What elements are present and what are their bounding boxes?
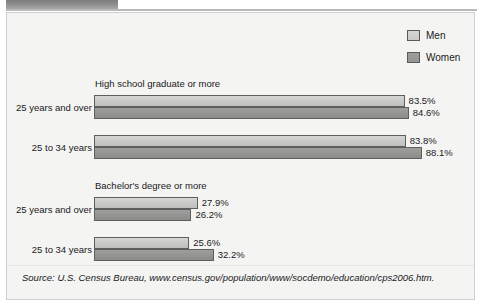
value-women-hs-25-and-over: 84.6% bbox=[413, 107, 440, 118]
source-note: Source: U.S. Census Bureau, www.census.g… bbox=[22, 272, 434, 283]
bar-women-hs-25-and-over bbox=[94, 107, 409, 119]
bar-men-ba-25-and-over bbox=[94, 197, 198, 209]
value-men-hs-25-to-34: 83.8% bbox=[410, 135, 437, 146]
value-men-hs-25-and-over: 83.5% bbox=[409, 95, 436, 106]
bar-pair-bachelors-25-and-over: 25 years and over 27.9% 26.2% bbox=[0, 197, 469, 225]
value-men-ba-25-and-over: 27.9% bbox=[202, 197, 229, 208]
bar-pair-25-and-over: 25 years and over 83.5% 84.6% bbox=[0, 95, 469, 123]
group-title-highschool: High school graduate or more bbox=[95, 78, 220, 89]
bar-pair-25-to-34: 25 to 34 years 83.8% 88.1% bbox=[0, 135, 469, 163]
legend-label-men: Men bbox=[426, 30, 445, 41]
header-band bbox=[6, 0, 118, 9]
bar-women-ba-25-to-34 bbox=[94, 249, 214, 261]
bar-men-ba-25-to-34 bbox=[94, 237, 189, 249]
category-label-bachelors-25-and-over: 25 years and over bbox=[0, 204, 92, 215]
chart-legend: Men Women bbox=[407, 26, 477, 70]
value-women-ba-25-to-34: 32.2% bbox=[218, 249, 245, 260]
group-title-bachelors: Bachelor's degree or more bbox=[95, 180, 207, 191]
value-women-hs-25-to-34: 88.1% bbox=[426, 147, 453, 158]
bar-pair-bachelors-25-to-34: 25 to 34 years 25.6% 32.2% bbox=[0, 237, 469, 265]
header-divider bbox=[6, 9, 477, 11]
chart-figure: Men Women High school graduate or more 2… bbox=[0, 0, 483, 308]
bar-women-hs-25-to-34 bbox=[94, 147, 422, 159]
legend-swatch-men bbox=[407, 30, 420, 41]
value-women-ba-25-and-over: 26.2% bbox=[195, 209, 222, 220]
category-label-25-and-over: 25 years and over bbox=[0, 102, 92, 113]
legend-swatch-women bbox=[407, 52, 420, 63]
legend-item-women: Women bbox=[407, 48, 477, 66]
legend-label-women: Women bbox=[426, 52, 460, 63]
bar-men-hs-25-to-34 bbox=[94, 135, 406, 147]
source-divider bbox=[7, 265, 474, 266]
category-label-bachelors-25-to-34: 25 to 34 years bbox=[0, 244, 92, 255]
category-label-25-to-34: 25 to 34 years bbox=[0, 142, 92, 153]
legend-item-men: Men bbox=[407, 26, 477, 44]
bar-women-ba-25-and-over bbox=[94, 209, 191, 221]
value-men-ba-25-to-34: 25.6% bbox=[193, 237, 220, 248]
bar-men-hs-25-and-over bbox=[94, 95, 405, 107]
